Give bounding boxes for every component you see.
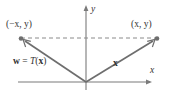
reflection-transformation-figure: (−x, y) (x, y) w = T(x) x y x: [0, 0, 172, 97]
y-axis-label: y: [91, 5, 95, 15]
vector-w-label: w = T(x): [13, 57, 46, 67]
vector-x-shaft: [86, 41, 153, 82]
reflected-point-dot: [19, 36, 24, 41]
y-axis: [84, 5, 89, 90]
x-axis-arrowhead-icon: [146, 80, 152, 85]
vector-x-argument-symbol: x: [38, 56, 43, 66]
vector-x-label: x: [113, 59, 118, 69]
reflected-point-label: (−x, y): [6, 20, 32, 30]
vector-x: [86, 36, 159, 82]
original-point-label: (x, y): [131, 20, 152, 30]
vector-w-symbol: w: [13, 56, 20, 66]
vector-w-equals: =: [20, 56, 30, 66]
x-axis-label: x: [150, 66, 154, 76]
original-point-dot: [155, 36, 160, 41]
figure-canvas: [0, 0, 172, 97]
y-axis-arrowhead-icon: [84, 5, 89, 11]
vector-x-symbol: x: [113, 58, 118, 68]
transformation-symbol: T: [30, 56, 35, 66]
